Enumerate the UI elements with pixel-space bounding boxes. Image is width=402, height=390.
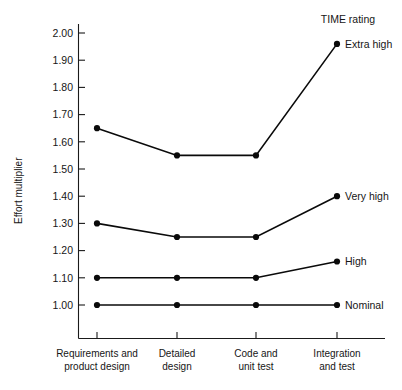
data-point-marker bbox=[174, 234, 180, 240]
x-tick-label-line1: Code and bbox=[234, 348, 277, 359]
x-tick-label-line2: and test bbox=[319, 361, 355, 372]
x-tick-label-line1: Requirements and bbox=[56, 348, 138, 359]
y-tick-label: 1.40 bbox=[53, 190, 74, 202]
data-point-marker bbox=[94, 275, 100, 281]
y-tick-label: 2.00 bbox=[53, 27, 74, 39]
data-point-marker bbox=[94, 220, 100, 226]
y-tick-label: 1.90 bbox=[53, 54, 74, 66]
y-axis-title: Effort multiplier bbox=[13, 157, 24, 224]
x-tick-label-line1: Integration bbox=[313, 348, 360, 359]
series-label: High bbox=[345, 255, 367, 267]
series-label: Very high bbox=[345, 190, 389, 202]
legend-title: TIME rating bbox=[321, 13, 375, 25]
y-tick-label: 1.00 bbox=[53, 299, 74, 311]
y-tick-label: 1.80 bbox=[53, 81, 74, 93]
data-point-marker bbox=[94, 125, 100, 131]
data-point-marker bbox=[174, 302, 180, 308]
data-point-marker bbox=[253, 302, 259, 308]
data-point-marker bbox=[253, 152, 259, 158]
x-tick-label-line2: unit test bbox=[238, 361, 273, 372]
data-point-marker bbox=[94, 302, 100, 308]
x-tick-label-line2: product design bbox=[64, 361, 130, 372]
y-tick-label: 1.70 bbox=[53, 108, 74, 120]
y-tick-label: 1.50 bbox=[53, 163, 74, 175]
data-point-marker bbox=[334, 258, 340, 264]
data-point-marker bbox=[253, 275, 259, 281]
series-label: Extra high bbox=[345, 38, 392, 50]
series-label: Nominal bbox=[345, 299, 384, 311]
y-tick-label: 1.30 bbox=[53, 217, 74, 229]
data-point-marker bbox=[174, 152, 180, 158]
y-tick-label: 1.20 bbox=[53, 244, 74, 256]
x-tick-label-line1: Detailed bbox=[159, 348, 196, 359]
chart-figure: 2.00 1.90 1.80 1.70 1.60 1.50 1.40 1.30 … bbox=[0, 0, 402, 390]
data-point-marker bbox=[174, 275, 180, 281]
y-tick-label: 1.60 bbox=[53, 136, 74, 148]
effort-multiplier-line-chart: 2.00 1.90 1.80 1.70 1.60 1.50 1.40 1.30 … bbox=[0, 0, 402, 390]
y-tick-label: 1.10 bbox=[53, 272, 74, 284]
x-tick-label-line2: design bbox=[162, 361, 191, 372]
data-point-marker bbox=[334, 193, 340, 199]
data-point-marker bbox=[253, 234, 259, 240]
data-point-marker bbox=[334, 302, 340, 308]
data-point-marker bbox=[334, 41, 340, 47]
